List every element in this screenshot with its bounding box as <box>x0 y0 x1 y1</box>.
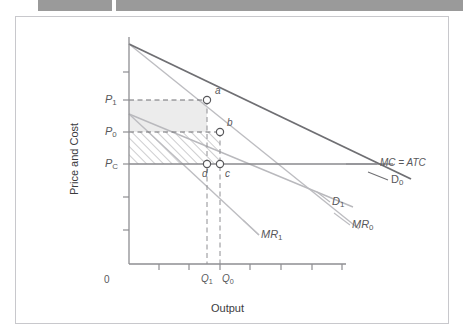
curve-label-mc-atc: MC = ATC <box>380 158 426 168</box>
origin-label: 0 <box>104 275 110 285</box>
top-banner-right <box>116 0 463 11</box>
figure-root: Price and Cost Output 0 P1 P0 PC Q1 Q0 a… <box>0 0 463 335</box>
curve-label-d1: D1 <box>332 196 344 207</box>
point-label-d: d <box>202 169 208 179</box>
region-profit-upper <box>129 100 207 132</box>
top-banner-left <box>38 0 112 11</box>
curve-label-mr0: MR0 <box>352 219 374 230</box>
quantity-label-q0: Q0 <box>222 274 234 284</box>
x-axis-title: Output <box>211 302 244 314</box>
curve-label-mr0-sub: 0 <box>369 223 373 232</box>
figure-frame: Price and Cost Output 0 P1 P0 PC Q1 Q0 a… <box>15 16 449 324</box>
price-label-p1: P1 <box>105 94 117 105</box>
curve-label-mr1-sub: 1 <box>278 233 282 242</box>
x-axis-ticks <box>159 264 342 270</box>
quantity-label-q0-sub: 0 <box>230 277 234 286</box>
curve-label-d0-text: D <box>391 173 399 185</box>
point-d-marker <box>203 160 210 167</box>
quantity-label-q1-text: Q <box>201 273 209 284</box>
price-label-p1-sub: 1 <box>112 98 116 107</box>
curve-label-d1-text: D <box>332 195 340 207</box>
point-label-b: b <box>227 118 233 128</box>
price-label-pc: PC <box>105 158 118 169</box>
quantity-label-q1-sub: 1 <box>209 277 213 286</box>
price-label-p0-sub: 0 <box>112 130 116 139</box>
curve-label-d0-sub: 0 <box>399 178 403 187</box>
curve-label-mr0-text: MR <box>352 218 369 230</box>
price-label-p0: P0 <box>105 126 117 137</box>
y-axis-title: Price and Cost <box>68 123 80 195</box>
leader-mr1 <box>243 220 259 235</box>
curve-label-mr1-text: MR <box>261 228 278 240</box>
quantity-label-q0-text: Q <box>222 273 230 284</box>
point-label-a: a <box>215 86 221 96</box>
point-a-marker <box>203 96 210 103</box>
point-label-c: c <box>225 169 230 179</box>
quantity-label-q1: Q1 <box>201 274 213 284</box>
leader-d0 <box>368 172 388 180</box>
region-profit-hatched <box>129 132 220 164</box>
point-b-marker <box>216 128 223 135</box>
price-label-pc-sub: C <box>112 162 118 171</box>
point-c-marker <box>216 160 223 167</box>
curve-label-mr1: MR1 <box>261 229 283 240</box>
curve-label-d1-sub: 1 <box>340 200 344 209</box>
y-axis-ticks <box>123 72 129 230</box>
curve-label-d0: D0 <box>391 174 403 185</box>
